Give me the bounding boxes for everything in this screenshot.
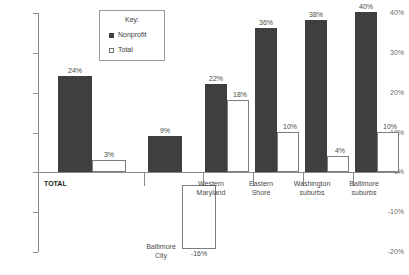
legend-label: Nonprofit — [118, 31, 146, 38]
bar-total[interactable] — [92, 160, 126, 172]
legend-swatch-filled-square-icon — [109, 33, 114, 38]
legend-item-nonprofit[interactable]: Nonprofit — [109, 31, 146, 39]
legend-swatch-hollow-square-icon — [109, 48, 114, 53]
category-label-total: TOTAL — [44, 180, 114, 189]
bar-value-label: 9% — [140, 127, 190, 135]
legend-title: Key: — [100, 16, 164, 23]
bar-value-label: 38% — [295, 11, 337, 19]
bar-total[interactable] — [227, 100, 249, 172]
category-label-baltimore-suburbs: Baltimore suburbs — [332, 180, 396, 197]
bar-value-label: 40% — [345, 3, 387, 11]
bar-nonprofit[interactable] — [355, 12, 377, 172]
bar-total[interactable] — [377, 132, 399, 172]
plot-area: 24% 3% 9% -16% 22% 18% 36% 10% 3 — [38, 13, 400, 252]
bar-total[interactable] — [277, 132, 299, 172]
legend-item-total[interactable]: Total — [109, 46, 133, 54]
bar-value-label: 10% — [369, 123, 409, 131]
bar-value-label: 24% — [50, 67, 100, 75]
legend-label: Total — [118, 46, 133, 53]
category-label-baltimore-city: Baltimore City — [128, 243, 194, 260]
bar-value-label: 3% — [84, 151, 134, 159]
chart-legend: Key: Nonprofit Total — [99, 10, 165, 61]
bar-value-label: 22% — [195, 75, 237, 83]
bar-total[interactable] — [327, 156, 349, 172]
bar-nonprofit[interactable] — [255, 28, 277, 172]
bar-value-label: 36% — [245, 19, 287, 27]
group-separator — [144, 172, 145, 186]
bar-nonprofit[interactable] — [148, 136, 182, 172]
